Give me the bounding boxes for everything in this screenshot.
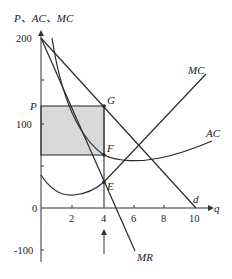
x-tick-label-8: 8 — [161, 213, 166, 224]
point-g — [102, 104, 106, 108]
label-demand: d — [193, 193, 199, 205]
y-axis-label: P、AC、MC — [13, 12, 74, 24]
x-tick-label-10: 10 — [189, 213, 200, 224]
label-e: E — [106, 180, 114, 192]
point-e — [102, 180, 106, 184]
price-label: P — [29, 100, 37, 112]
x-tick-label-4: 4 — [101, 213, 107, 224]
y-tick-label-neg100: -100 — [14, 245, 33, 256]
monopoly-diagram: P、AC、MC 200 100 0 -100 P 2 4 6 8 10 q G … — [0, 0, 232, 279]
label-g: G — [107, 94, 115, 106]
point-f — [102, 153, 106, 157]
y-tick-label-200: 200 — [16, 33, 32, 44]
label-f: F — [106, 142, 114, 154]
x-tick-label-2: 2 — [69, 213, 74, 224]
label-mc: MC — [187, 64, 205, 76]
label-ac: AC — [205, 127, 221, 139]
y-tick-label-100: 100 — [16, 119, 32, 130]
y-tick-label-0: 0 — [32, 203, 37, 214]
x-tick-label-6: 6 — [131, 213, 136, 224]
label-mr: MR — [136, 251, 153, 263]
x-axis-label: q — [214, 202, 220, 214]
